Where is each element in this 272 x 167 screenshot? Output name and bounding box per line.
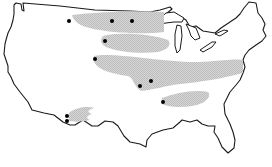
- marker-dot: [161, 100, 165, 104]
- marker-dot: [110, 19, 114, 23]
- us-map-svg: [0, 0, 272, 167]
- marker-dot: [149, 79, 153, 83]
- marker-dot: [138, 84, 142, 88]
- marker-dot: [67, 19, 71, 23]
- marker-dot: [93, 57, 97, 61]
- us-map: [0, 0, 272, 167]
- marker-dot: [65, 119, 69, 123]
- marker-dot: [65, 114, 69, 118]
- marker-dot: [130, 19, 134, 23]
- marker-dot: [103, 39, 107, 43]
